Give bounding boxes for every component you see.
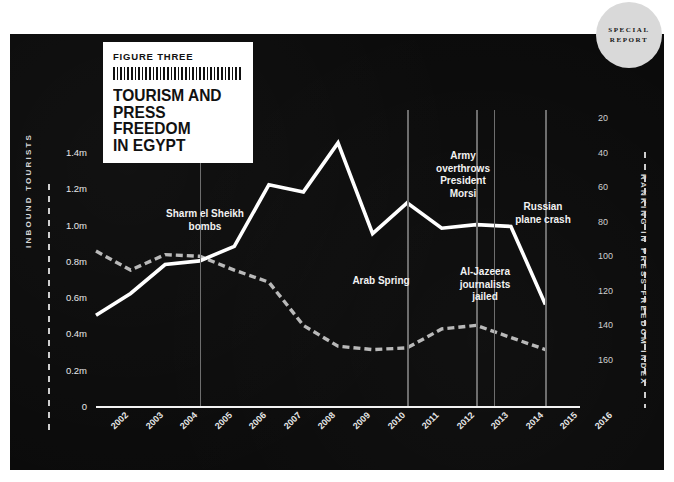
y-tick-left: 1.2m bbox=[66, 183, 87, 194]
y-tick-left: 0.4m bbox=[66, 328, 87, 339]
x-axis-line bbox=[96, 406, 580, 408]
event-marker-line bbox=[545, 110, 546, 408]
chart-annotation: Army overthrows President Morsi bbox=[436, 150, 490, 200]
infographic-root: SPECIAL REPORT SOURCES: UNWTO, Press Fre… bbox=[0, 0, 674, 482]
y-tick-left: 0 bbox=[82, 401, 87, 412]
y-tick-left: 0.6m bbox=[66, 292, 87, 303]
special-report-badge: SPECIAL REPORT bbox=[596, 2, 662, 68]
y-tick-left: 0.2m bbox=[66, 364, 87, 375]
event-marker-line bbox=[494, 110, 495, 408]
y-tick-right: 100 bbox=[598, 251, 613, 261]
title-line-2: PRESS FREEDOM bbox=[113, 104, 235, 137]
y-tick-right: 20 bbox=[598, 113, 608, 123]
chart-annotation: Arab Spring bbox=[352, 275, 409, 288]
chart-annotation: Sharm el Sheikh bombs bbox=[166, 208, 244, 233]
badge-line-1: SPECIAL bbox=[608, 25, 650, 35]
badge-line-2: REPORT bbox=[610, 35, 649, 45]
y-tick-left: 1.0m bbox=[66, 219, 87, 230]
y-tick-right: 120 bbox=[598, 286, 613, 296]
chart-annotation: Russian plane crash bbox=[515, 201, 571, 226]
figure-label: FIGURE THREE bbox=[113, 51, 243, 62]
y-tick-left: 0.8m bbox=[66, 255, 87, 266]
barcode-decoration bbox=[113, 67, 243, 80]
y-tick-right: 40 bbox=[598, 148, 608, 158]
y-tick-right: 160 bbox=[598, 355, 613, 365]
title-line-1: TOURISM AND bbox=[113, 87, 235, 104]
title-line-3: IN EGYPT bbox=[113, 137, 235, 154]
right-axis-title: RANKING IN PRESS FREEDOM INDEX bbox=[639, 174, 648, 386]
y-tick-right: 80 bbox=[598, 217, 608, 227]
title-block: FIGURE THREE TOURISM AND PRESS FREEDOM I… bbox=[103, 42, 253, 163]
chart-annotation: Al-Jazeera journalists jailed bbox=[460, 266, 511, 304]
left-axis-rule bbox=[48, 184, 50, 434]
y-tick-right: 140 bbox=[598, 320, 613, 330]
y-tick-left: 1.4m bbox=[66, 147, 87, 158]
y-tick-right: 60 bbox=[598, 182, 608, 192]
event-marker-line bbox=[407, 110, 408, 408]
left-axis-title: INBOUND TOURISTS bbox=[24, 133, 33, 248]
